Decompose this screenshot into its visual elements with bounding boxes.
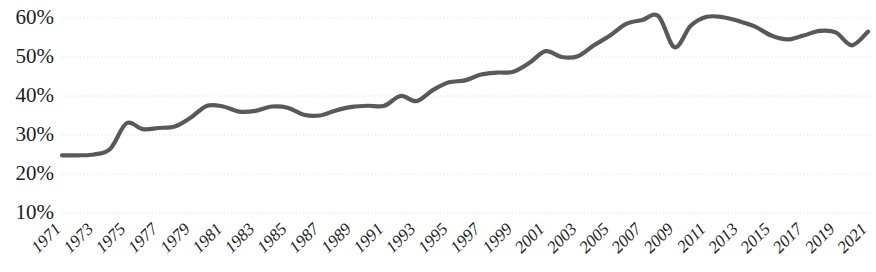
y-tick-label: 10% — [16, 200, 55, 224]
y-tick-label: 60% — [16, 5, 55, 29]
y-tick-label: 20% — [16, 161, 55, 185]
y-tick-label: 30% — [16, 122, 55, 146]
y-tick-label: 50% — [16, 44, 55, 68]
y-tick-label: 40% — [16, 83, 55, 107]
chart-canvas: 10%20%30%40%50%60% 197119731975197719791… — [0, 0, 876, 272]
line-chart: 10%20%30%40%50%60% 197119731975197719791… — [0, 0, 876, 272]
